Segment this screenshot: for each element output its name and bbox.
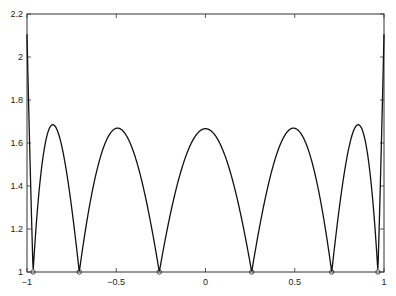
y-tick-label: 2.2 — [10, 9, 23, 19]
chart: −1−0.500.51 11.21.41.61.822.2 — [0, 0, 396, 296]
x-tick-label: 1 — [381, 277, 386, 287]
x-tick-label: −0.5 — [107, 277, 125, 287]
x-tick-label: 0.5 — [288, 277, 301, 287]
y-tick-label: 1.2 — [10, 224, 23, 234]
x-tick-label: −1 — [22, 277, 32, 287]
x-tick-label: 0 — [203, 277, 208, 287]
y-tick-label: 1 — [18, 267, 23, 277]
plot-area — [27, 14, 384, 272]
y-tick-label: 2 — [18, 52, 23, 62]
y-tick-label: 1.4 — [10, 181, 23, 191]
y-tick-label: 1.8 — [10, 95, 23, 105]
y-tick-label: 1.6 — [10, 138, 23, 148]
